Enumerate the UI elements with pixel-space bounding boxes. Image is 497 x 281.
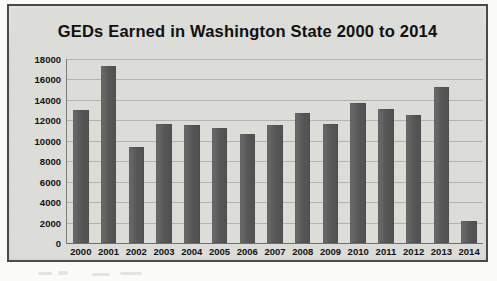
- x-tick-label-2003: 2003: [153, 246, 174, 257]
- bar-2014: [461, 221, 477, 243]
- chart-inner-panel: GEDs Earned in Washington State 2000 to …: [11, 8, 484, 258]
- x-tick-label-2007: 2007: [264, 246, 285, 257]
- y-tick-label: 16000: [35, 74, 61, 85]
- scan-artifact: [38, 272, 52, 275]
- chart-title: GEDs Earned in Washington State 2000 to …: [11, 22, 484, 41]
- x-tick-label-2009: 2009: [320, 246, 341, 257]
- scanned-page: GEDs Earned in Washington State 2000 to …: [0, 0, 497, 281]
- x-tick-label-2005: 2005: [209, 246, 230, 257]
- x-tick-label-2012: 2012: [403, 246, 424, 257]
- y-tick-label: 14000: [35, 94, 61, 105]
- bar-2011: [378, 109, 394, 243]
- x-tick-label-2006: 2006: [237, 246, 258, 257]
- scan-artifact: [120, 272, 142, 275]
- bar-2002: [129, 147, 145, 243]
- y-tick-label: 6000: [40, 176, 61, 187]
- bar-2004: [184, 125, 200, 243]
- chart-frame: GEDs Earned in Washington State 2000 to …: [7, 4, 488, 262]
- y-tick-label: 12000: [35, 115, 61, 126]
- gridline: [67, 100, 483, 101]
- gridline: [67, 79, 483, 80]
- bar-2007: [267, 125, 283, 243]
- bar-2010: [350, 103, 366, 243]
- y-axis-tick-labels: 0200040006000800010000120001400016000180…: [11, 59, 61, 243]
- x-axis-line: [67, 243, 483, 244]
- plot-area: [67, 59, 483, 243]
- bar-2000: [73, 110, 89, 243]
- bar-2013: [434, 87, 450, 243]
- x-tick-label-2004: 2004: [181, 246, 202, 257]
- scan-artifact: [92, 273, 110, 276]
- bar-2012: [406, 115, 422, 243]
- y-tick-label: 18000: [35, 54, 61, 65]
- x-tick-label-2008: 2008: [292, 246, 313, 257]
- x-tick-label-2002: 2002: [126, 246, 147, 257]
- x-tick-label-2014: 2014: [459, 246, 480, 257]
- bar-2009: [323, 124, 339, 243]
- x-tick-label-2013: 2013: [431, 246, 452, 257]
- x-tick-label-2010: 2010: [348, 246, 369, 257]
- bar-2008: [295, 113, 311, 243]
- bar-2003: [156, 124, 172, 243]
- y-tick-label: 2000: [40, 217, 61, 228]
- y-tick-label: 0: [56, 238, 61, 249]
- x-tick-label-2011: 2011: [376, 246, 397, 257]
- gridline: [67, 59, 483, 60]
- bar-2006: [240, 134, 256, 243]
- x-tick-label-2000: 2000: [70, 246, 91, 257]
- y-tick-label: 4000: [40, 197, 61, 208]
- bar-2005: [212, 128, 228, 244]
- y-tick-label: 8000: [40, 156, 61, 167]
- x-axis-tick-labels: 2000200120022003200420052006200720082009…: [67, 246, 483, 262]
- scan-artifact: [58, 271, 68, 275]
- x-tick-label-2001: 2001: [98, 246, 119, 257]
- bar-2001: [101, 66, 117, 243]
- y-tick-label: 10000: [35, 135, 61, 146]
